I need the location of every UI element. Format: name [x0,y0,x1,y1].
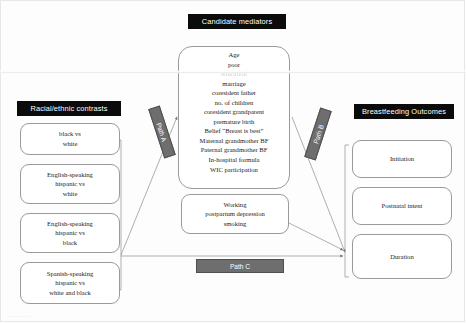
banner-breastfeeding-outcomes: Breastfeeding Outcomes [354,104,454,119]
mediator-item: education [200,69,269,79]
caption-smudge: ........... [9,312,31,318]
mediator-item: Paternal grandmother BF [200,145,269,155]
mediator-item: Working [205,200,265,210]
mediator-item: no. of children [200,98,269,108]
mediator-primary-list: Agepooreducationmarriagecoresident fathe… [197,47,272,174]
mediator-item: Maternal grandmother BF [200,136,269,146]
path-c-label: Path C [196,259,284,273]
figure-canvas: Candidate mediators Racial/ethnic contra… [0,0,466,323]
outcome-label: Postnatal intent [379,201,426,211]
mediator-secondary-list: Workingpostpartum depressionsmoking [202,200,268,229]
contrast-label: Spanish-speakinghispanic vswhite and bla… [44,269,97,298]
mediator-item: premature birth [200,117,269,127]
banner-candidate-mediators: Candidate mediators [188,14,286,29]
contrast-box-black-vs-white[interactable]: black vswhite [20,123,120,155]
path-b-label: Path B [304,107,331,160]
mediator-box-secondary[interactable]: Workingpostpartum depressionsmoking [181,194,289,234]
path-a-label: Path A [148,105,175,158]
outcome-box-duration[interactable]: Duration [352,234,452,279]
mediator-item: smoking [205,219,265,229]
outcome-label: Duration [387,252,416,262]
mediator-item: postpartum depression [205,209,265,219]
outcome-label: Initiation [387,154,417,164]
mediator-item: WIC participation [200,165,269,175]
mediator-item: Belief “Breast is best” [200,126,269,136]
contrast-label: English-speakinghispanic vsblack [44,219,96,248]
outcome-box-initiation[interactable]: Initiation [352,140,452,178]
outcome-bracket [345,145,349,277]
contrast-label: English-speakinghispanic vswhite [44,170,96,199]
mediator-item: poor [200,60,269,70]
mediator-box-primary[interactable]: Agepooreducationmarriagecoresident fathe… [178,46,290,189]
mediator-item: coresident grandparent [200,107,269,117]
contrast-box-spa-hispanic-vs-white-black[interactable]: Spanish-speakinghispanic vswhite and bla… [20,262,120,304]
contrast-box-eng-hispanic-vs-black[interactable]: English-speakinghispanic vsblack [20,213,120,253]
contrast-label: black vswhite [56,129,84,148]
contrast-box-eng-hispanic-vs-white[interactable]: English-speakinghispanic vswhite [20,164,120,204]
banner-racial-ethnic-contrasts: Racial/ethnic contrasts [17,101,121,116]
mediator-item: In-hospital formula [200,155,269,165]
mediator-item: coresident father [200,88,269,98]
mediator-item: marriage [200,79,269,89]
mediator-item: Age [200,50,269,60]
outcome-box-postnatal-intent[interactable]: Postnatal intent [352,187,452,225]
secondary-mediator-link [287,222,343,250]
